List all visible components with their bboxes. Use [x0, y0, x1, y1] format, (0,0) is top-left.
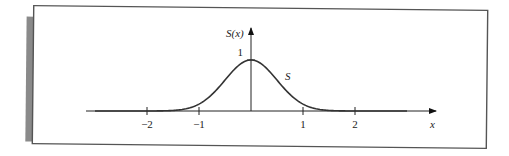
curve-label: S: [285, 70, 291, 82]
plot-area: −2−1121 S(x) x S: [86, 27, 436, 130]
x-tick-label: −1: [193, 118, 205, 130]
x-tick-label: −2: [141, 118, 153, 130]
x-tick-label: 1: [300, 118, 306, 130]
x-tick-label: 2: [352, 118, 358, 130]
figure-frame: [32, 6, 487, 149]
x-axis-label: x: [429, 118, 435, 130]
y-axis-label: S(x): [226, 27, 244, 40]
y-tick-label: 1: [238, 46, 244, 58]
figure: −2−1121 S(x) x S: [0, 0, 509, 156]
